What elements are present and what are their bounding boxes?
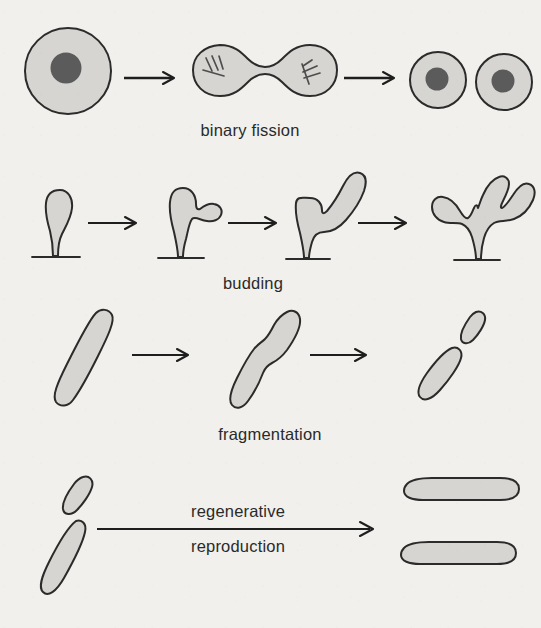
caption-binary-fission: binary fission <box>200 119 299 141</box>
diagram-artwork <box>0 0 541 628</box>
arrow-budding-2 <box>228 217 276 229</box>
stage-hydra-multiple-buds <box>432 176 535 260</box>
arrow-budding-3 <box>358 217 406 229</box>
caption-regenerative-line1: regenerative <box>185 500 291 522</box>
stage-separated-fragments <box>418 311 485 399</box>
stage-dividing-cell <box>193 45 337 96</box>
caption-fragmentation: fragmentation <box>218 423 322 445</box>
stage-two-regrown-organisms <box>401 478 519 564</box>
stage-single-parent-cell <box>25 28 111 114</box>
caption-regenerative-line1-text: regenerative <box>185 502 291 520</box>
caption-budding: budding <box>223 272 283 294</box>
stage-hydra-small-bud <box>158 188 222 258</box>
arrow-budding-1 <box>88 217 136 229</box>
stage-constricting-filament <box>230 311 300 408</box>
stage-intact-filament <box>55 310 113 406</box>
caption-regenerative-line2: reproduction <box>185 535 291 557</box>
stage-two-daughter-cells <box>410 52 532 110</box>
caption-regenerative-line2-text: reproduction <box>185 537 291 555</box>
stage-hydra-large-bud <box>286 173 366 259</box>
arrow-fission-1 <box>124 72 174 84</box>
stage-parent-hydra <box>32 190 80 257</box>
stage-two-fragments <box>41 477 93 594</box>
arrow-fragmentation-1 <box>132 349 188 361</box>
arrow-fission-2 <box>344 72 394 84</box>
figure-canvas: binary fission budding fragmentation reg… <box>0 0 541 628</box>
arrow-fragmentation-2 <box>310 349 366 361</box>
arrow-regenerative <box>97 522 373 536</box>
